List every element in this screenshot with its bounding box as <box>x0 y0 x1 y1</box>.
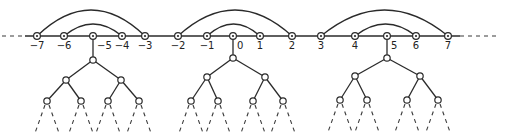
tree-edge <box>233 58 265 77</box>
axis-node-center <box>320 35 322 37</box>
axis-node-center <box>291 35 293 37</box>
axis-node-center <box>386 35 388 37</box>
tree-continuation-dash <box>395 104 405 132</box>
tree-edge <box>420 76 438 100</box>
axis-label-5: 5 <box>391 40 397 51</box>
tree-node <box>136 98 142 104</box>
axis-label--1: −1 <box>200 40 215 51</box>
tree-continuation-dash <box>271 105 281 133</box>
axis-node-center <box>177 35 179 37</box>
tree-node <box>262 74 268 80</box>
tree-continuation-dash <box>220 105 230 133</box>
tree-node <box>417 73 423 79</box>
axis-node-center <box>92 35 94 37</box>
tree-node <box>204 74 210 80</box>
tree-node <box>188 98 194 104</box>
tree-node <box>384 55 390 61</box>
axis-node-center <box>206 35 208 37</box>
tree-edge <box>253 77 265 101</box>
tree-continuation-dash <box>426 104 436 132</box>
tree-node <box>280 98 286 104</box>
axis-label-4: 4 <box>352 40 358 51</box>
tree-edge <box>191 77 207 101</box>
tree-continuation-dash <box>342 104 352 132</box>
tree-continuation-dash <box>206 105 216 133</box>
tree-continuation-dash <box>369 104 379 132</box>
tree-edge <box>355 76 367 100</box>
axis-label-6: 6 <box>413 40 419 51</box>
axis-node-center <box>36 35 38 37</box>
tree-continuation-dash <box>241 105 251 133</box>
axis-label-3: 3 <box>318 40 324 51</box>
axis-node-center <box>121 35 123 37</box>
tree-node <box>78 98 84 104</box>
axis-label-1: 1 <box>257 40 263 51</box>
tree-node <box>352 73 358 79</box>
tree-node <box>44 98 50 104</box>
axis-node-center <box>259 35 261 37</box>
tree-node <box>364 97 370 103</box>
axis-label-0: 0 <box>237 40 243 51</box>
axis-node-center <box>415 35 417 37</box>
tree-node <box>63 77 69 83</box>
number-line-tree-diagram: −7−6−5−4−3−2−101234567 <box>0 0 514 140</box>
tree-edge <box>387 58 420 76</box>
axis-label--4: −4 <box>115 40 130 51</box>
tree-edge <box>66 80 81 101</box>
tree-continuation-dash <box>35 105 45 133</box>
tree-continuation-dash <box>141 105 151 133</box>
arc--2-to-2 <box>178 10 292 36</box>
tree-node <box>404 97 410 103</box>
tree-continuation-dash <box>69 105 79 133</box>
tree-continuation-dash <box>96 105 106 133</box>
axis-label--6: −6 <box>57 40 72 51</box>
tree-continuation-dash <box>127 105 137 133</box>
axis-label-7: 7 <box>445 40 451 51</box>
tree-edge <box>93 60 121 80</box>
axis-node-center <box>354 35 356 37</box>
tree-edge <box>207 58 233 77</box>
tree-node <box>230 55 236 61</box>
tree-continuation-dash <box>285 105 295 133</box>
axis-node-center <box>144 35 146 37</box>
tree-continuation-dash <box>255 105 265 133</box>
tree-continuation-dash <box>179 105 189 133</box>
arc-3-to-7 <box>321 10 448 36</box>
tree-edge <box>355 58 387 76</box>
tree-node <box>118 77 124 83</box>
tree-continuation-dash <box>328 104 338 132</box>
axis-node-center <box>447 35 449 37</box>
tree-node <box>90 57 96 63</box>
tree-edge <box>47 80 66 101</box>
tree-edge <box>265 77 283 101</box>
tree-continuation-dash <box>49 105 59 133</box>
axis-node-center <box>232 35 234 37</box>
tree-under--5 <box>35 36 151 133</box>
axis-label--7: −7 <box>30 40 45 51</box>
axis-label--5: −5 <box>97 40 112 51</box>
tree-under-5 <box>328 36 450 132</box>
tree-continuation-dash <box>83 105 93 133</box>
tree-continuation-dash <box>409 104 419 132</box>
tree-continuation-dash <box>440 104 450 132</box>
axis-label--2: −2 <box>171 40 186 51</box>
tree-node <box>435 97 441 103</box>
axis-label--3: −3 <box>138 40 153 51</box>
tree-node <box>250 98 256 104</box>
axis-label-2: 2 <box>289 40 295 51</box>
tree-node <box>105 98 111 104</box>
tree-edge <box>121 80 139 101</box>
tree-edge <box>407 76 420 100</box>
tree-continuation-dash <box>355 104 365 132</box>
tree-edge <box>340 76 355 100</box>
tree-continuation-dash <box>193 105 203 133</box>
tree-edge <box>66 60 93 80</box>
axis-node-center <box>63 35 65 37</box>
tree-node <box>337 97 343 103</box>
tree-edge <box>207 77 218 101</box>
tree-node <box>215 98 221 104</box>
tree-continuation-dash <box>110 105 120 133</box>
arc--7-to--3 <box>37 10 145 36</box>
